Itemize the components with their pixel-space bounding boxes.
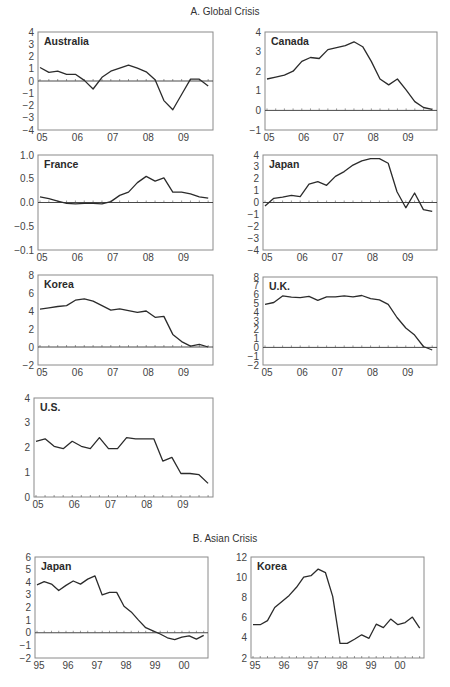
series-line — [37, 576, 204, 640]
series-line — [267, 42, 432, 110]
y-tick-label: 12 — [236, 552, 248, 563]
y-tick-label: −1 — [250, 125, 262, 136]
x-tick-label: 96 — [62, 660, 74, 671]
y-tick-label: 2 — [241, 653, 247, 664]
asian-japan-chart: 6543210−1−2959697989900Japan — [20, 552, 208, 672]
x-tick-label: 06 — [69, 499, 81, 510]
x-tick-label: 05 — [36, 252, 48, 263]
x-tick-label: 97 — [91, 660, 103, 671]
x-tick-label: 00 — [394, 660, 406, 671]
y-tick-label: 3 — [255, 46, 261, 57]
global-japan-chart: 43210−1−2−3−40506070809Japan — [248, 150, 437, 264]
y-tick-label: 2 — [25, 602, 31, 613]
y-tick-label: 1 — [255, 85, 261, 96]
x-tick-label: 06 — [72, 132, 84, 143]
panel-title: U.K. — [269, 280, 290, 292]
x-tick-label: 06 — [72, 252, 84, 263]
x-tick-label: 06 — [72, 367, 84, 378]
y-tick-label: 2 — [24, 442, 30, 453]
x-tick-label: 06 — [298, 132, 310, 143]
y-tick-label: 0 — [255, 105, 261, 116]
y-tick-label: 6 — [28, 288, 34, 299]
x-tick-label: 08 — [367, 367, 379, 378]
x-tick-label: 09 — [403, 132, 415, 143]
x-tick-label: 05 — [36, 367, 48, 378]
y-tick-label: 5 — [25, 564, 31, 575]
y-tick-label: 0 — [24, 492, 30, 503]
x-tick-label: 08 — [143, 252, 155, 263]
y-tick-label: 4 — [255, 27, 261, 38]
y-tick-label: 8 — [28, 270, 34, 281]
x-tick-label: 08 — [141, 499, 153, 510]
y-tick-label: 4 — [241, 632, 247, 643]
y-tick-label: −2 — [20, 653, 32, 664]
y-tick-label: −2 — [23, 100, 35, 111]
panel-title: Japan — [269, 158, 299, 170]
y-tick-label: 1 — [24, 467, 30, 478]
y-tick-label: 1 — [253, 185, 259, 196]
x-tick-label: 99 — [149, 660, 161, 671]
series-line — [36, 438, 208, 484]
y-tick-label: 3 — [253, 161, 259, 172]
x-tick-label: 98 — [120, 660, 132, 671]
global-australia-chart: 43210−1−2−3−40506070809Australia — [23, 27, 213, 144]
y-tick-label: 4 — [25, 577, 31, 588]
x-tick-label: 96 — [278, 660, 290, 671]
y-tick-label: −0.5 — [14, 221, 34, 232]
panel-title: Korea — [44, 278, 74, 290]
y-tick-label: −4 — [23, 125, 35, 136]
y-tick-label: 2 — [28, 51, 34, 62]
y-tick-label: −0.1 — [14, 245, 34, 256]
y-tick-label: −2 — [248, 360, 260, 371]
y-tick-label: −1 — [23, 88, 35, 99]
series-line — [40, 299, 208, 347]
x-tick-label: 09 — [177, 499, 189, 510]
y-tick-label: 3 — [24, 417, 30, 428]
panel-title: Australia — [44, 35, 89, 47]
y-tick-label: 1 — [25, 615, 31, 626]
y-tick-label: 1.0 — [20, 150, 34, 161]
x-tick-label: 00 — [178, 660, 190, 671]
x-tick-label: 07 — [105, 499, 117, 510]
x-tick-label: 05 — [261, 367, 273, 378]
global-korea-chart: 86420−20506070809Korea — [23, 270, 213, 379]
x-tick-label: 07 — [332, 367, 344, 378]
asian-korea-chart: 12108642959697989900Korea — [236, 552, 424, 672]
x-tick-label: 09 — [402, 252, 414, 263]
x-tick-label: 99 — [365, 660, 377, 671]
series-line — [40, 65, 208, 110]
y-tick-label: 4 — [28, 306, 34, 317]
y-tick-label: 6 — [241, 612, 247, 623]
y-tick-label: 4 — [28, 27, 34, 38]
plot-frame — [251, 557, 424, 658]
panel-title: France — [44, 158, 79, 170]
x-tick-label: 05 — [261, 252, 273, 263]
y-tick-label: 0.5 — [20, 173, 34, 184]
y-tick-label: −1 — [20, 640, 32, 651]
panel-title: U.S. — [40, 401, 61, 413]
x-tick-label: 09 — [402, 367, 414, 378]
y-tick-label: 0 — [28, 342, 34, 353]
x-tick-label: 07 — [332, 252, 344, 263]
y-tick-label: 4 — [24, 393, 30, 404]
plot-frame — [35, 557, 208, 658]
x-tick-label: 06 — [297, 252, 309, 263]
global-canada-chart: 43210−10506070809Canada — [250, 27, 437, 144]
x-tick-label: 07 — [107, 252, 119, 263]
charts-canvas: 43210−1−2−3−40506070809Australia43210−10… — [0, 0, 450, 687]
x-tick-label: 08 — [143, 367, 155, 378]
y-tick-label: 8 — [241, 592, 247, 603]
x-tick-label: 09 — [178, 252, 190, 263]
panel-title: Canada — [271, 35, 309, 47]
y-tick-label: 0 — [253, 197, 259, 208]
y-tick-label: −4 — [248, 245, 260, 256]
x-tick-label: 07 — [107, 132, 119, 143]
x-tick-label: 09 — [178, 132, 190, 143]
y-tick-label: 6 — [25, 552, 31, 563]
y-tick-label: 2 — [253, 173, 259, 184]
y-tick-label: 1 — [28, 63, 34, 74]
panel-title: Japan — [41, 560, 71, 572]
y-tick-label: −2 — [23, 360, 35, 371]
global-uk-chart: 876543210−1−20506070809U.K. — [248, 272, 437, 379]
panel-title: Korea — [257, 560, 287, 572]
